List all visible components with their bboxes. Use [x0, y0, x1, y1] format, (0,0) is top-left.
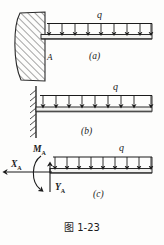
beam-body-a [41, 35, 152, 39]
beam-b [36, 107, 152, 112]
beam-body-c [50, 169, 152, 173]
part-label-a: (a) [89, 52, 100, 62]
load-arrows-a [49, 24, 151, 33]
load-label-c: q [119, 143, 124, 153]
horizontal-reaction-label: XA [11, 160, 22, 171]
load-label-b: q [113, 82, 118, 92]
moment-reaction-label: MA [33, 145, 46, 156]
wall-support-a [15, 12, 45, 81]
figure-drawing [0, 0, 164, 245]
vertical-reaction-subscript: A [61, 188, 65, 194]
moment-reaction-subscript: A [41, 150, 45, 156]
beam-a [41, 35, 152, 40]
figure-caption: 图 1-23 [0, 219, 164, 234]
diagram-a [15, 12, 152, 81]
support-hatching-b [30, 90, 36, 137]
part-label-c: (c) [93, 190, 104, 200]
figure-container: q A (a) q (b) q MA XA YA (c) 图 1-23 [0, 0, 164, 245]
wall-body-a [15, 12, 45, 81]
load-label-a: q [97, 10, 102, 20]
load-arrows-b [43, 96, 151, 105]
horizontal-reaction-subscript: A [17, 165, 21, 171]
distributed-load-a [47, 24, 152, 35]
beam-body-b [36, 107, 152, 111]
point-label-a: A [47, 53, 53, 62]
load-arrows-c [55, 157, 151, 166]
distributed-load-c [53, 157, 152, 168]
distributed-load-b [40, 96, 152, 107]
part-label-b: (b) [81, 127, 92, 137]
beam-c [50, 169, 152, 174]
diagram-c [7, 156, 152, 192]
wall-support-b [30, 86, 36, 138]
vertical-reaction-label: YA [55, 183, 65, 194]
